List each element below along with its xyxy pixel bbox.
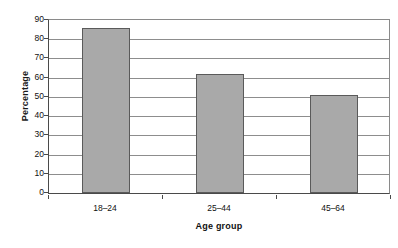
y-tick-mark (44, 154, 48, 155)
y-tick-label: 70 (14, 53, 44, 61)
y-tick-label: 0 (14, 188, 44, 196)
y-tick-mark (44, 57, 48, 58)
y-tick-mark (44, 192, 48, 193)
x-tick-mark (390, 195, 391, 199)
y-tick-mark (44, 77, 48, 78)
x-tick-mark (48, 195, 49, 199)
y-tick-label: 30 (14, 130, 44, 138)
y-tick-mark (44, 19, 48, 20)
plot-area (48, 19, 390, 194)
x-tick-mark (162, 195, 163, 199)
bars-group (49, 20, 389, 193)
y-tick-mark (44, 173, 48, 174)
x-tick-label: 18–24 (60, 203, 150, 213)
y-tick-mark (44, 38, 48, 39)
y-tick-label: 60 (14, 73, 44, 81)
bar (196, 74, 244, 193)
y-tick-mark (44, 134, 48, 135)
y-tick-label: 50 (14, 92, 44, 100)
y-tick-label: 40 (14, 111, 44, 119)
x-tick-label: 45–64 (288, 203, 378, 213)
x-tick-label: 25–44 (174, 203, 264, 213)
y-tick-mark (44, 96, 48, 97)
y-tick-label: 10 (14, 169, 44, 177)
bar-chart: Percentage 9080706050403020100 18–2425–4… (0, 0, 398, 248)
y-tick-mark (44, 115, 48, 116)
bar (82, 28, 130, 193)
bar (310, 95, 358, 193)
y-tick-label: 20 (14, 150, 44, 158)
y-tick-label: 90 (14, 15, 44, 23)
x-tick-mark (276, 195, 277, 199)
x-axis-title: Age group (48, 221, 390, 231)
y-tick-label: 80 (14, 34, 44, 42)
